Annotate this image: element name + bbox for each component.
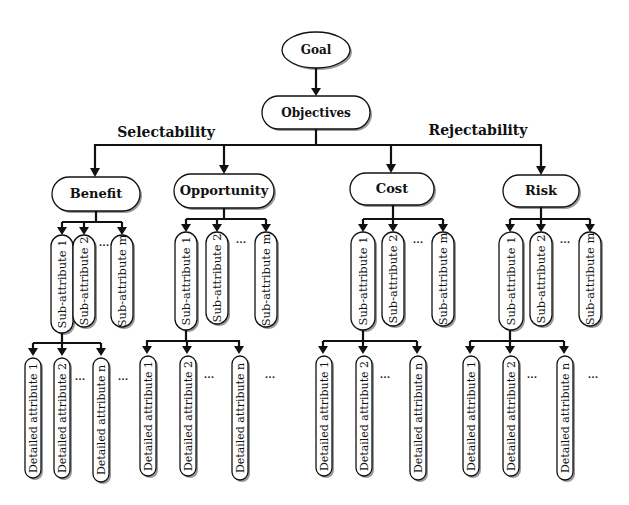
detail-branch-risk bbox=[465, 330, 569, 354]
ellipsis: ... bbox=[236, 234, 246, 245]
detail-branch-benefit bbox=[28, 333, 106, 356]
svg-text:Sub-attribute 1: Sub-attribute 1 bbox=[179, 237, 193, 326]
svg-text:Detailed attribute n: Detailed attribute n bbox=[412, 363, 425, 473]
ellipsis: ... bbox=[75, 371, 85, 382]
svg-text:Sub-attribute 1: Sub-attribute 1 bbox=[356, 237, 370, 326]
detailed-attribute-pill: Detailed attribute n bbox=[93, 358, 111, 484]
goal-label: Goal bbox=[301, 43, 332, 57]
svg-text:Detailed attribute 1: Detailed attribute 1 bbox=[142, 361, 155, 471]
sub-attribute-pill: Sub-attribute 2 bbox=[382, 232, 406, 328]
svg-text:Sub-attribute 1: Sub-attribute 1 bbox=[504, 237, 518, 326]
svg-text:Sub-attribute m: Sub-attribute m bbox=[115, 235, 129, 328]
svg-text:Sub-attribute m: Sub-attribute m bbox=[259, 234, 273, 327]
sub-attribute-pill: Sub-attribute 2 bbox=[530, 232, 554, 328]
sub-branch-benefit bbox=[57, 211, 127, 235]
sub-attribute-pill: Sub-attribute 1 bbox=[175, 232, 199, 332]
detailed-attribute-pill: Detailed attribute 2 bbox=[54, 358, 72, 480]
sub-attribute-pill: Sub-attribute m bbox=[579, 232, 603, 328]
ellipsis: ... bbox=[527, 369, 537, 380]
sub-attribute-pill: Sub-attribute m bbox=[255, 232, 279, 329]
category-label: Cost bbox=[376, 181, 408, 196]
svg-text:Sub-attribute 1: Sub-attribute 1 bbox=[55, 240, 69, 329]
sub-attribute-pill: Sub-attribute 1 bbox=[499, 232, 525, 332]
svg-text:Detailed attribute n: Detailed attribute n bbox=[559, 363, 572, 473]
ellipsis: ... bbox=[204, 369, 214, 380]
group-label-selectability: Selectability bbox=[117, 124, 216, 140]
detailed-attribute-pill: Detailed attribute 2 bbox=[180, 356, 198, 478]
detailed-attribute-pill: Detailed attribute 2 bbox=[356, 356, 374, 478]
ellipsis: ... bbox=[118, 371, 128, 382]
svg-text:Detailed attribute 1: Detailed attribute 1 bbox=[318, 361, 331, 471]
svg-text:Sub-attribute m: Sub-attribute m bbox=[583, 233, 597, 326]
objectives-label: Objectives bbox=[281, 106, 351, 120]
sub-branch-opportunity bbox=[181, 208, 271, 232]
svg-text:Sub-attribute m: Sub-attribute m bbox=[436, 233, 450, 326]
ellipsis: ... bbox=[413, 234, 423, 245]
ellipsis: ... bbox=[99, 237, 109, 248]
sub-branch-cost bbox=[358, 205, 448, 232]
svg-text:Detailed attribute 2: Detailed attribute 2 bbox=[182, 361, 195, 471]
svg-text:Detailed attribute 2: Detailed attribute 2 bbox=[56, 363, 69, 473]
detailed-attribute-pill: Detailed attribute 2 bbox=[503, 356, 521, 478]
detailed-attribute-pill: Detailed attribute 1 bbox=[316, 356, 334, 478]
ellipsis: ... bbox=[265, 369, 275, 380]
category-label: Benefit bbox=[70, 186, 122, 201]
hierarchy-diagram: Goal Objectives Selectability Rejectabil… bbox=[0, 0, 629, 505]
sub-attribute-pill: Sub-attribute 1 bbox=[351, 232, 377, 332]
sub-attribute-pill: Sub-attribute 2 bbox=[73, 235, 97, 329]
category-node-benefit: Benefit bbox=[52, 177, 142, 213]
svg-text:Detailed attribute 2: Detailed attribute 2 bbox=[505, 361, 518, 471]
svg-text:Detailed attribute 2: Detailed attribute 2 bbox=[358, 361, 371, 471]
sub-attribute-pill: Sub-attribute 2 bbox=[206, 232, 230, 326]
detail-branch-cost bbox=[318, 330, 422, 354]
svg-text:Sub-attribute 2: Sub-attribute 2 bbox=[210, 234, 224, 323]
svg-text:Detailed attribute n: Detailed attribute n bbox=[95, 365, 108, 475]
sub-attribute-pill: Sub-attribute m bbox=[111, 235, 135, 329]
detailed-attribute-pill: Detailed attribute n bbox=[410, 356, 428, 482]
category-label: Risk bbox=[525, 183, 558, 198]
category-node-risk: Risk bbox=[503, 175, 581, 209]
svg-text:Detailed attribute n: Detailed attribute n bbox=[234, 363, 247, 473]
svg-text:Detailed attribute 1: Detailed attribute 1 bbox=[465, 361, 478, 471]
svg-text:Sub-attribute 2: Sub-attribute 2 bbox=[77, 237, 91, 326]
svg-text:Sub-attribute 2: Sub-attribute 2 bbox=[534, 235, 548, 324]
goal-node: Goal bbox=[282, 32, 352, 70]
detailed-attribute-pill: Detailed attribute n bbox=[557, 356, 575, 482]
detail-branch-opportunity bbox=[142, 330, 244, 354]
ellipsis: ... bbox=[380, 369, 390, 380]
sub-branch-risk bbox=[505, 207, 595, 232]
category-node-cost: Cost bbox=[350, 173, 436, 207]
detailed-attribute-pill: Detailed attribute n bbox=[232, 356, 250, 482]
sub-attribute-pill: Sub-attribute 1 bbox=[51, 235, 75, 335]
group-label-rejectability: Rejectability bbox=[429, 122, 529, 138]
detailed-attribute-pill: Detailed attribute 1 bbox=[25, 358, 43, 480]
detailed-attribute-pill: Detailed attribute 1 bbox=[463, 356, 481, 478]
svg-text:Sub-attribute 2: Sub-attribute 2 bbox=[386, 235, 400, 324]
svg-text:Detailed attribute 1: Detailed attribute 1 bbox=[27, 363, 40, 473]
arrow-icon bbox=[311, 88, 321, 96]
category-label: Opportunity bbox=[180, 183, 269, 198]
category-node-opportunity: Opportunity bbox=[174, 174, 276, 210]
objectives-node: Objectives bbox=[262, 96, 372, 131]
ellipsis: ... bbox=[588, 369, 598, 380]
ellipsis: ... bbox=[560, 234, 570, 245]
detailed-attribute-pill: Detailed attribute 1 bbox=[140, 356, 158, 478]
sub-attribute-pill: Sub-attribute m bbox=[432, 232, 456, 328]
